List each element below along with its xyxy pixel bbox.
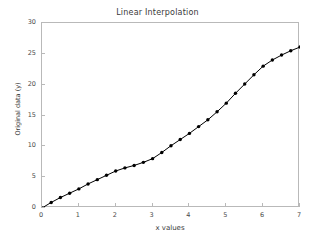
data-point — [160, 151, 163, 154]
data-line — [42, 47, 300, 208]
x-axis-label: x values — [41, 224, 299, 232]
data-point — [132, 164, 135, 167]
x-tick-label: 3 — [144, 211, 160, 219]
x-tick-label: 4 — [180, 211, 196, 219]
data-point — [271, 58, 274, 61]
data-point — [280, 53, 283, 56]
data-point — [169, 144, 172, 147]
x-tick-mark — [262, 203, 263, 207]
y-tick-label: 5 — [10, 172, 36, 180]
data-point — [123, 166, 126, 169]
data-point — [225, 101, 228, 104]
y-tick-mark — [41, 22, 45, 23]
y-tick-mark — [41, 53, 45, 54]
chart-title: Linear Interpolation — [0, 8, 315, 17]
y-tick-mark — [41, 145, 45, 146]
x-tick-mark — [188, 203, 189, 207]
y-tick-mark — [41, 115, 45, 116]
data-point — [105, 174, 108, 177]
x-tick-label: 7 — [291, 211, 307, 219]
data-series-canvas — [42, 23, 300, 208]
data-point — [179, 138, 182, 141]
data-point — [96, 178, 99, 181]
y-tick-label: 0 — [10, 203, 36, 211]
data-point — [243, 82, 246, 85]
data-point — [234, 92, 237, 95]
data-point — [114, 169, 117, 172]
chart-figure: Linear Interpolation 051015202530 012345… — [0, 0, 315, 243]
data-point — [188, 132, 191, 135]
data-point — [68, 192, 71, 195]
plot-area — [41, 22, 299, 207]
data-point — [151, 157, 154, 160]
data-point — [215, 110, 218, 113]
y-tick-label: 30 — [10, 18, 36, 26]
data-point — [59, 196, 62, 199]
y-tick-mark — [41, 207, 45, 208]
x-tick-label: 6 — [254, 211, 270, 219]
data-point — [252, 73, 255, 76]
data-point — [86, 182, 89, 185]
y-tick-mark — [41, 176, 45, 177]
data-point — [77, 187, 80, 190]
x-tick-label: 1 — [70, 211, 86, 219]
x-tick-mark — [299, 203, 300, 207]
x-tick-label: 0 — [33, 211, 49, 219]
x-tick-label: 2 — [107, 211, 123, 219]
data-point — [197, 125, 200, 128]
y-axis-label: Original data (y) — [14, 54, 22, 164]
data-point — [298, 45, 300, 48]
y-tick-mark — [41, 84, 45, 85]
x-tick-label: 5 — [217, 211, 233, 219]
x-tick-mark — [152, 203, 153, 207]
data-point — [142, 161, 145, 164]
x-tick-mark — [225, 203, 226, 207]
data-markers — [42, 45, 300, 208]
data-point — [206, 118, 209, 121]
data-point — [289, 49, 292, 52]
data-point — [261, 64, 264, 67]
data-point — [50, 201, 53, 204]
x-tick-mark — [115, 203, 116, 207]
x-tick-mark — [41, 203, 42, 207]
x-tick-mark — [78, 203, 79, 207]
